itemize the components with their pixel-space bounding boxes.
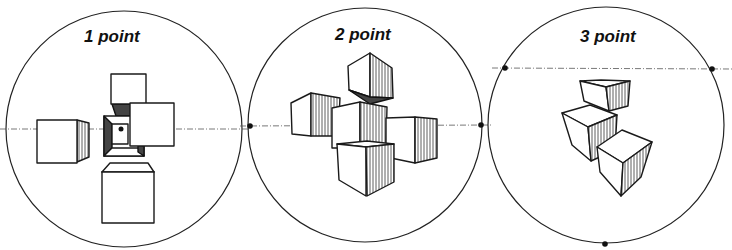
vanishing-point-right — [478, 122, 484, 128]
panel-three-point: 3 point — [488, 7, 732, 247]
cube-left — [37, 120, 89, 163]
panel-label: 3 point — [580, 27, 637, 46]
cube-bottom — [337, 141, 394, 196]
vanishing-point-left — [502, 65, 508, 71]
vanishing-point-bottom — [602, 241, 608, 247]
perspective-diagram: 1 point — [0, 0, 732, 250]
panel-one-point: 1 point — [0, 11, 248, 247]
vanishing-point-left — [247, 123, 253, 129]
vanishing-point — [119, 127, 124, 132]
vanishing-point-right — [709, 66, 715, 72]
cube-bottom — [102, 163, 154, 223]
panel-label: 1 point — [84, 27, 141, 46]
panel-label: 2 point — [334, 25, 392, 44]
cube-top — [348, 53, 393, 104]
horizon-line — [492, 68, 732, 69]
panel-two-point: 2 point — [240, 8, 492, 242]
